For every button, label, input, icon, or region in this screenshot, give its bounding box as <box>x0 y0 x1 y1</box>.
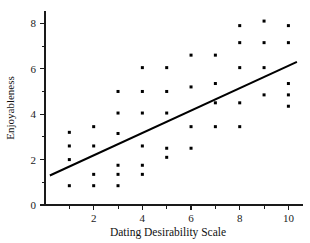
y-tick-label: 4 <box>31 108 37 120</box>
data-point <box>141 112 144 115</box>
data-point <box>117 184 120 187</box>
data-point <box>117 132 120 135</box>
data-point <box>141 173 144 176</box>
x-tick-label: 6 <box>188 212 194 224</box>
data-point <box>263 20 266 23</box>
x-tick-label: 10 <box>283 212 295 224</box>
data-point <box>238 41 241 44</box>
data-point <box>92 144 95 147</box>
data-point <box>287 105 290 108</box>
data-point <box>263 66 266 69</box>
data-point <box>287 24 290 27</box>
data-points-group <box>68 20 290 188</box>
data-point <box>165 147 168 150</box>
y-tick-label: 0 <box>31 199 37 211</box>
data-point <box>92 173 95 176</box>
data-point <box>117 112 120 115</box>
data-point <box>190 85 193 88</box>
data-point <box>287 41 290 44</box>
data-point <box>117 173 120 176</box>
data-point <box>68 144 71 147</box>
data-point <box>92 184 95 187</box>
data-point <box>263 41 266 44</box>
data-point <box>92 125 95 128</box>
x-tick-label: 8 <box>237 212 243 224</box>
x-tick-label: 4 <box>140 212 146 224</box>
data-point <box>214 82 217 85</box>
data-point <box>141 66 144 69</box>
data-point <box>190 54 193 57</box>
data-point <box>141 144 144 147</box>
data-point <box>190 125 193 128</box>
data-point <box>190 147 193 150</box>
data-point <box>263 93 266 96</box>
axes-group <box>45 11 303 205</box>
data-point <box>238 66 241 69</box>
y-axis-title: Enjoyableness <box>4 76 16 140</box>
data-point <box>287 93 290 96</box>
data-point <box>214 101 217 104</box>
y-tick-label: 8 <box>31 17 37 29</box>
plot-canvas: 02468246810 Dating Desirability Scale En… <box>0 0 310 243</box>
data-point <box>238 101 241 104</box>
data-point <box>117 164 120 167</box>
data-point <box>165 66 168 69</box>
data-point <box>141 90 144 93</box>
y-tick-label: 2 <box>31 154 37 166</box>
tick-labels-group: 02468246810 <box>31 17 295 224</box>
regression-line-group <box>50 62 297 176</box>
data-point <box>238 125 241 128</box>
data-point <box>117 90 120 93</box>
x-axis-title: Dating Desirability Scale <box>110 226 226 239</box>
x-tick-label: 2 <box>91 212 97 224</box>
data-point <box>238 24 241 27</box>
data-point <box>141 164 144 167</box>
data-point <box>165 156 168 159</box>
data-point <box>68 158 71 161</box>
y-tick-label: 6 <box>31 63 37 75</box>
data-point <box>214 54 217 57</box>
data-point <box>68 184 71 187</box>
data-point <box>165 112 168 115</box>
regression-line <box>50 62 297 176</box>
data-point <box>68 131 71 134</box>
ticks-group <box>40 23 288 210</box>
data-point <box>165 90 168 93</box>
data-point <box>287 82 290 85</box>
scatter-chart: 02468246810 Dating Desirability Scale En… <box>0 0 310 243</box>
data-point <box>214 125 217 128</box>
